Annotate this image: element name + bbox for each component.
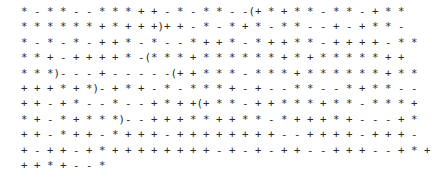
text-line-10: + - + + - + * + + + + + + + + - + - + - … bbox=[21, 143, 431, 158]
symbol-text-block: * - * * - - * * * + + - * - * * - -(+ * … bbox=[21, 4, 431, 173]
text-line-4: * * + - + + + + * -(* * * + * * * * * * … bbox=[21, 50, 431, 65]
text-line-2: * * * * * * + * + + +)+ + - * - * + * - … bbox=[21, 19, 431, 34]
text-line-5: * * *)- - - + - - - - -(+ + * * * - * * … bbox=[21, 66, 431, 81]
text-line-6: + + + * + *)- + * + - * - * * * + - + - … bbox=[21, 81, 431, 96]
text-line-7: + + - + * - - * - - + * + +(+ * * - + + … bbox=[21, 96, 431, 111]
text-line-8: * + - * + * * *)- - + + + * * + + * * - … bbox=[21, 112, 431, 127]
text-line-9: + + - * + + - * + + + - + + + + + + + + … bbox=[21, 127, 431, 142]
text-line-3: * - * - * - + + * - * - - * + + * - * + … bbox=[21, 35, 431, 50]
text-line-11: + + * + - - * bbox=[21, 158, 431, 173]
text-line-1: * - * * - - * * * + + - * - * * - -(+ * … bbox=[21, 4, 431, 19]
